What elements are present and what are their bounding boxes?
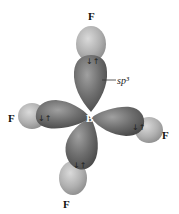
sp3-label: sp³ (117, 75, 130, 86)
electron-pair-right: ↓↑ (132, 123, 145, 132)
fluorine-label-left: F (8, 112, 15, 124)
central-atom-label: B (86, 112, 94, 124)
electron-pair-top: ↓↑ (86, 57, 99, 66)
fluorine-label-bottom: F (63, 198, 70, 210)
electron-pair-bottom: ↓↑ (73, 161, 86, 170)
electron-pair-left: ↓↑ (38, 114, 51, 123)
fluorine-label-right: F (162, 129, 169, 141)
fluorine-label-top: F (88, 10, 95, 22)
bf4-orbital-diagram: ↓↑ ↓↑ ↓↑ ↓↑ sp³ B F F F F (0, 0, 179, 214)
